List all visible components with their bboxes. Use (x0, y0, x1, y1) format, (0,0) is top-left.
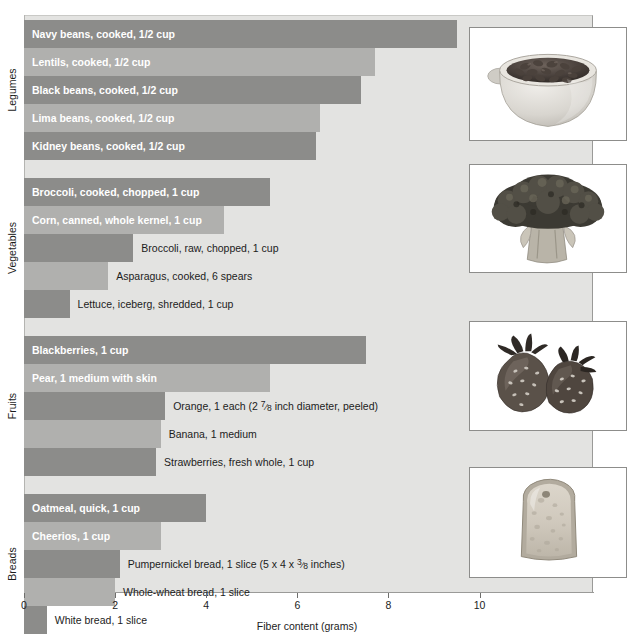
bar (24, 234, 133, 262)
bar-label: Navy beans, cooked, 1/2 cup (32, 20, 175, 48)
x-tick-label: 4 (191, 599, 221, 611)
black-beans-in-bowl-photo (469, 27, 627, 141)
bar-label: Pear, 1 medium with skin (32, 364, 157, 392)
bar-label: Lettuce, iceberg, shredded, 1 cup (78, 290, 234, 318)
x-tick-mark (24, 593, 25, 598)
bar-label: Kidney beans, cooked, 1/2 cup (32, 132, 185, 160)
bar-label: Lentils, cooked, 1/2 cup (32, 48, 150, 76)
x-tick-label: 8 (373, 599, 403, 611)
strawberries-illustration (470, 321, 626, 431)
x-tick-mark (480, 593, 481, 598)
bar-label: Blackberries, 1 cup (32, 336, 128, 364)
fiber-content-chart: Navy beans, cooked, 1/2 cupLentils, cook… (0, 0, 636, 643)
bar-label: Broccoli, cooked, chopped, 1 cup (32, 178, 199, 206)
strawberries-photo (469, 321, 627, 431)
bar (24, 420, 161, 448)
x-axis-title: Fiber content (grams) (0, 620, 614, 632)
x-tick-mark (206, 593, 207, 598)
x-tick-mark (115, 593, 116, 598)
x-tick-label: 0 (9, 599, 39, 611)
bar (24, 290, 70, 318)
bar-label: Whole-wheat bread, 1 slice (123, 578, 250, 606)
category-label-breads: Breads (5, 494, 19, 634)
bar (24, 448, 156, 476)
bar-label: Cheerios, 1 cup (32, 522, 110, 550)
bar-label: Lima beans, cooked, 1/2 cup (32, 104, 174, 132)
bar (24, 392, 165, 420)
x-tick-label: 2 (100, 599, 130, 611)
broccoli-photo (469, 164, 627, 273)
x-tick-mark (297, 593, 298, 598)
bar (24, 550, 120, 578)
bread-slice-illustration (470, 467, 626, 578)
x-tick-label: 10 (465, 599, 495, 611)
broccoli-illustration (470, 164, 626, 273)
bar-label: Black beans, cooked, 1/2 cup (32, 76, 178, 104)
bar-label: Orange, 1 each (2 7⁄8 inch diameter, pee… (173, 392, 378, 420)
bar-label: Strawberries, fresh whole, 1 cup (164, 448, 314, 476)
bar-label: Broccoli, raw, chopped, 1 cup (141, 234, 278, 262)
x-tick-label: 6 (282, 599, 312, 611)
x-tick-mark (388, 593, 389, 598)
bar-label: Corn, canned, whole kernel, 1 cup (32, 206, 202, 234)
bar-label: Asparagus, cooked, 6 spears (116, 262, 252, 290)
bar-label: Banana, 1 medium (169, 420, 257, 448)
bread-slice-photo (469, 467, 627, 578)
category-label-legumes: Legumes (5, 20, 19, 160)
bar-label: Oatmeal, quick, 1 cup (32, 494, 140, 522)
bowl-of-beans-illustration (470, 27, 626, 141)
category-label-fruits: Fruits (5, 336, 19, 476)
bar (24, 262, 108, 290)
bar-label: Pumpernickel bread, 1 slice (5 x 4 x 3⁄8… (128, 550, 345, 578)
category-label-vegetables: Vegetables (5, 178, 19, 318)
